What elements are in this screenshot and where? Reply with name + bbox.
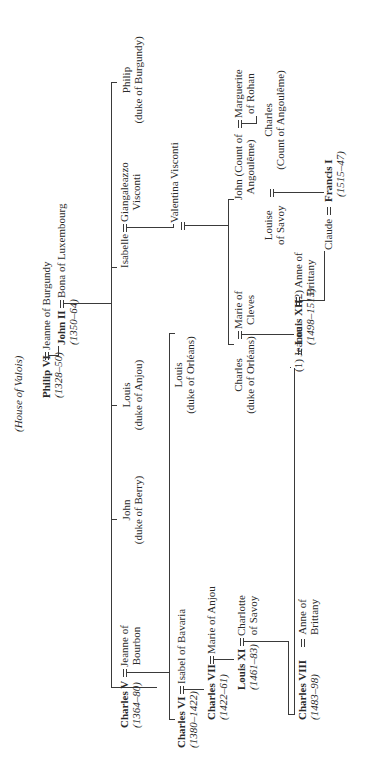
philip-duke-of-burgundy: Philip (duke of Burgundy) <box>120 35 144 125</box>
descent-line <box>111 267 117 268</box>
generation-5-bar <box>294 368 295 715</box>
descent-line <box>256 116 257 124</box>
anne-of-brittany-second-wife: (2) Anne of Brittany <box>292 252 316 303</box>
louis-duke-of-anjou: Louis (duke of Anjou) <box>120 355 144 435</box>
name-line-2: of Savoy <box>247 595 259 636</box>
name-line-2: of Savoy <box>274 206 286 245</box>
name-line-2: Brittany <box>308 599 320 635</box>
louis-xi-name: Louis XI <box>235 649 247 690</box>
descent-line <box>127 227 173 228</box>
charlotte-of-savoy: Charlotte of Savoy <box>235 595 259 636</box>
name: Charles <box>262 65 274 175</box>
francis-i-reign: (1515–47) <box>334 151 346 197</box>
name-line-2: Bourbon <box>130 625 142 667</box>
john-ii-reign: (1350–64) <box>67 299 79 345</box>
marriage-symbol <box>45 352 49 360</box>
name-line-2: of Rohan <box>244 69 256 118</box>
title: (duke of Orléans) <box>244 325 256 425</box>
descent-line <box>127 672 169 673</box>
generation-4-bar <box>228 200 229 345</box>
marriage-symbol <box>123 224 127 232</box>
descent-line <box>64 303 111 304</box>
bona-of-luxembourg: Bona of Luxembourg <box>55 203 67 298</box>
descent-line <box>173 224 174 228</box>
charles-vii-name: Charles VII <box>205 664 217 720</box>
name: Louis <box>120 355 132 435</box>
charles-vii-reign: (1422–61) <box>217 674 229 720</box>
charles-vi-reign: (1380–1422) <box>187 691 199 748</box>
philip-vi-name: Philip VI <box>40 355 52 398</box>
marriage-symbol <box>123 669 127 677</box>
john-count-of-angouleme: John (Count of Angoulême) <box>232 134 256 200</box>
name: John <box>120 470 132 550</box>
charles-v-reign: (1364–80) <box>130 682 142 728</box>
title: (Count of Angoulême) <box>274 65 286 175</box>
descent-line <box>324 251 325 301</box>
title: (duke of Anjou) <box>132 355 144 435</box>
marriage-symbol <box>270 189 274 197</box>
louise-of-savoy: Louise of Savoy <box>262 206 286 245</box>
marie-of-anjou: Marie of Anjou <box>205 586 217 654</box>
name: Charlotte <box>235 595 247 636</box>
descent-line <box>300 300 324 301</box>
giangaleazzo-visconti: Giangaleazzo Visconti <box>118 162 142 222</box>
marriage-symbol <box>181 222 185 230</box>
descent-line <box>185 225 229 226</box>
descent-line <box>274 192 324 193</box>
name: Marguerite <box>232 69 244 118</box>
descent-line <box>58 346 59 356</box>
charles-vi-name: Charles VI <box>175 697 187 748</box>
john-duke-of-berry: John (duke of Berry) <box>120 470 144 550</box>
title: (duke of Burgundy) <box>132 35 144 125</box>
louis-xi-reign: (1461–83) <box>247 644 259 690</box>
isabelle: Isabelle <box>118 234 130 268</box>
marriage-symbol <box>60 300 64 308</box>
charles-duke-of-orleans: Charles (duke of Orléans) <box>232 325 256 425</box>
jeanne-of-burgundy: Jeanne of Burgundy <box>40 262 52 350</box>
name: Giangaleazzo <box>118 162 130 222</box>
diagram-title: (House of Valois) <box>12 356 24 432</box>
francis-i-name: Francis I <box>322 160 334 202</box>
louis-duke-of-orleans: Louis (duke of Orléans) <box>172 325 196 425</box>
charles-count-of-angouleme: Charles (Count of Angoulême) <box>262 65 286 175</box>
name: Anne of <box>296 599 308 635</box>
title: (duke of Berry) <box>132 470 144 550</box>
descent-line <box>290 367 291 368</box>
marriage-symbol <box>240 638 244 646</box>
marriage-symbol <box>210 656 214 664</box>
isabel-of-bavaria: Isabel of Bavaria <box>175 609 187 684</box>
name-line-2: Visconti <box>130 162 142 222</box>
name: Marie of <box>232 291 244 329</box>
name-line-2: Brittany <box>304 252 316 303</box>
descent-line <box>288 641 289 715</box>
name: Jeanne of <box>118 625 130 667</box>
charles-viii-reign: (1483–98) <box>308 674 320 720</box>
marriage-symbol <box>301 639 305 647</box>
marie-of-cleves: Marie of Cleves <box>232 291 256 329</box>
name: (2) Anne of <box>292 252 304 303</box>
marriage-symbol <box>238 331 242 339</box>
generation-3-bar <box>169 333 170 720</box>
generation-2-bar <box>111 82 112 688</box>
descent-line <box>242 123 256 124</box>
charles-viii-name: Charles VIII <box>296 660 308 720</box>
name: John (Count of <box>232 134 244 200</box>
name-line-2: Angoulême) <box>244 134 256 200</box>
anne-of-brittany: Anne of Brittany <box>296 599 320 635</box>
descent-line <box>111 519 117 520</box>
name: Charles <box>232 325 244 425</box>
marriage-symbol <box>327 207 331 215</box>
valentina-visconti: Valentina Visconti <box>168 142 180 223</box>
descent-line <box>111 82 117 83</box>
philip-vi-reign: (1328–50) <box>52 352 64 398</box>
valois-family-tree: (House of Valois) Philip VI (1328–50) Je… <box>0 0 374 765</box>
jeanne-of-bourbon: Jeanne of Bourbon <box>118 625 142 667</box>
descent-line <box>184 689 204 690</box>
marguerite-of-rohan: Marguerite of Rohan <box>232 69 256 118</box>
marriage-symbol <box>298 349 302 355</box>
claude: Claude <box>322 219 334 250</box>
descent-line <box>244 641 288 642</box>
john-ii-name: John II <box>55 310 67 345</box>
name: Louis <box>172 325 184 425</box>
name: Louise <box>262 206 274 245</box>
